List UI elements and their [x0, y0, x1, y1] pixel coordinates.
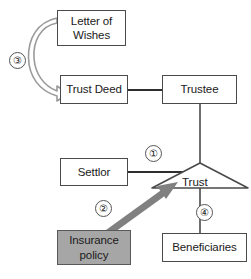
marker-2: ② [95, 200, 112, 217]
node-trust-label: Trust [182, 176, 208, 188]
marker-3: ③ [9, 52, 26, 69]
node-trustee[interactable]: Trustee [162, 75, 237, 104]
node-trust-deed[interactable]: Trust Deed [60, 75, 128, 104]
node-insurance-policy-label: Insurance policy [67, 233, 121, 261]
marker-1: ① [145, 145, 162, 162]
node-settlor-label: Settlor [76, 165, 113, 179]
node-insurance-policy[interactable]: Insurance policy [57, 230, 131, 265]
node-beneficiaries-label: Beneficiaries [170, 240, 239, 254]
marker-2-label: ② [99, 204, 108, 214]
node-trust-deed-label: Trust Deed [64, 82, 123, 96]
marker-4: ④ [196, 204, 213, 221]
marker-4-label: ④ [200, 208, 209, 218]
node-letter-of-wishes-label: Letter of Wishes [69, 14, 114, 42]
node-settlor[interactable]: Settlor [60, 158, 128, 186]
node-beneficiaries[interactable]: Beneficiaries [162, 233, 247, 262]
node-trustee-label: Trustee [179, 82, 221, 96]
trust-structure-diagram: Letter of Wishes Trust Deed Trustee Sett… [0, 0, 251, 279]
marker-3-label: ③ [13, 56, 22, 66]
marker-1-label: ① [149, 149, 158, 159]
node-letter-of-wishes[interactable]: Letter of Wishes [57, 10, 126, 46]
